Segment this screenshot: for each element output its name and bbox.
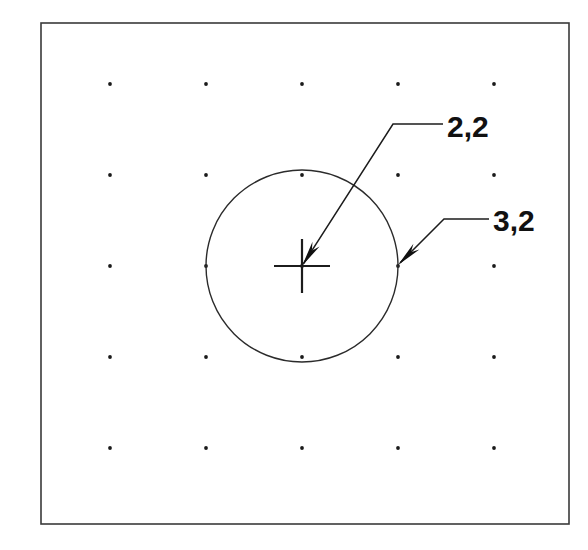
grid-dot	[396, 446, 400, 450]
grid-dot	[492, 355, 496, 359]
grid-dot	[108, 173, 112, 177]
drawing-border	[41, 23, 569, 524]
callout-edge-leader	[400, 219, 489, 263]
callout-center-label: 2,2	[447, 110, 489, 143]
grid-dot	[396, 82, 400, 86]
drawing-canvas: 2,2 3,2	[0, 0, 588, 550]
grid-dot	[204, 355, 208, 359]
callout-center-arrowhead-icon	[302, 242, 320, 266]
grid-dot	[492, 173, 496, 177]
grid-dot	[396, 355, 400, 359]
grid-dot	[204, 173, 208, 177]
grid-dot	[108, 446, 112, 450]
grid-dot	[204, 446, 208, 450]
grid-dot	[108, 355, 112, 359]
grid-dot	[396, 173, 400, 177]
grid-dot	[492, 446, 496, 450]
callout-center-leader	[304, 124, 443, 263]
grid-dot	[492, 82, 496, 86]
grid-dot	[300, 82, 304, 86]
technical-drawing-svg: 2,2 3,2	[0, 0, 588, 550]
grid-dot	[492, 264, 496, 268]
grid-dot	[300, 355, 304, 359]
grid-dot	[204, 82, 208, 86]
grid-dot	[108, 82, 112, 86]
callout-edge-label: 3,2	[493, 204, 535, 237]
grid-dot	[300, 173, 304, 177]
grid-dot	[300, 446, 304, 450]
grid-dot	[108, 264, 112, 268]
callout-edge: 3,2	[398, 204, 535, 265]
